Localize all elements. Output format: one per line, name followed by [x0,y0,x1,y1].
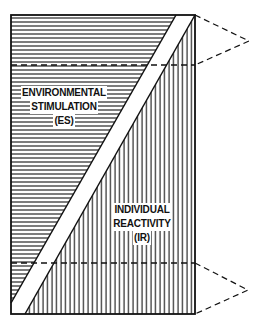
ir-label-line-2: REACTIVITY [112,217,171,231]
es-label-line-3: (ES) [53,114,74,128]
ir-label: INDIVIDUAL REACTIVITY (IR) [100,203,184,245]
es-label: ENVIRONMENTAL STIMULATION (ES) [12,86,116,128]
es-ir-diagram [0,0,255,331]
es-label-line-1: ENVIRONMENTAL [21,86,107,100]
ir-label-line-3: (IR) [133,231,151,245]
lower-arrow-wedge [195,263,248,314]
ir-label-line-1: INDIVIDUAL [113,203,170,217]
es-label-line-2: STIMULATION [30,100,97,114]
upper-arrow-wedge [195,15,249,65]
